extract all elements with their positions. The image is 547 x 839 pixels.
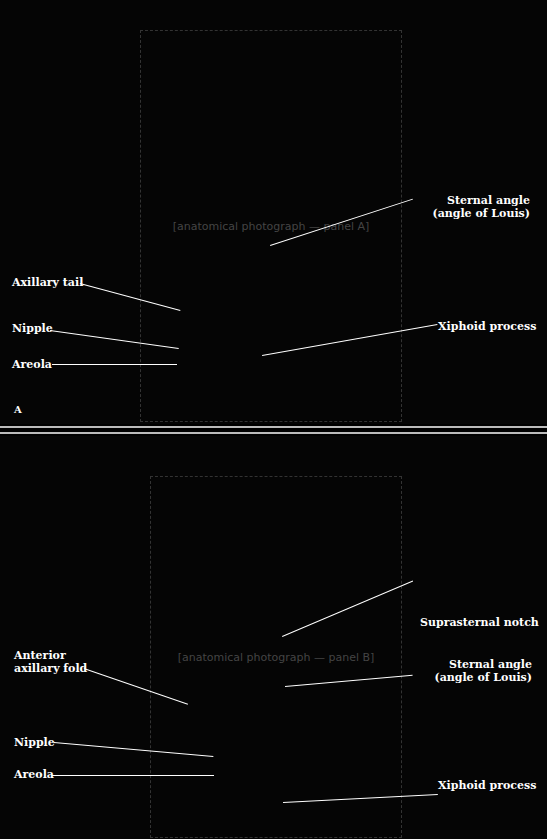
label-line-2: axillary fold <box>14 662 87 675</box>
label-line-1: Sternal angle <box>410 194 530 207</box>
label-axillary-tail: Axillary tail <box>12 276 83 289</box>
label-areola-b: Areola <box>14 768 54 781</box>
figure-panel-a: [anatomical photograph — panel A] Sterna… <box>0 0 547 424</box>
panel-divider <box>0 432 547 434</box>
figure-panel-b: [anatomical photograph — panel B] Supras… <box>0 436 547 839</box>
label-suprasternal-notch: Suprasternal notch <box>420 616 539 629</box>
panel-divider <box>0 426 547 428</box>
label-line-1: Anterior <box>14 649 87 662</box>
label-areola-a: Areola <box>12 358 52 371</box>
label-xiphoid-b: Xiphoid process <box>438 779 536 792</box>
label-sternal-angle-b: Sternal angle (angle of Louis) <box>410 658 532 684</box>
photo-placeholder-a: [anatomical photograph — panel A] <box>140 30 402 422</box>
panel-letter-a: A <box>14 404 22 415</box>
label-nipple-a: Nipple <box>12 322 53 335</box>
label-sternal-angle-a: Sternal angle (angle of Louis) <box>410 194 530 220</box>
label-anterior-axillary-fold: Anterior axillary fold <box>14 649 87 675</box>
label-xiphoid-a: Xiphoid process <box>438 320 536 333</box>
label-line-2: (angle of Louis) <box>410 207 530 220</box>
label-line-2: (angle of Louis) <box>410 671 532 684</box>
leader-line <box>52 364 177 365</box>
label-nipple-b: Nipple <box>14 736 55 749</box>
label-line-1: Sternal angle <box>410 658 532 671</box>
leader-line <box>52 775 214 776</box>
photo-placeholder-b: [anatomical photograph — panel B] <box>150 476 402 838</box>
